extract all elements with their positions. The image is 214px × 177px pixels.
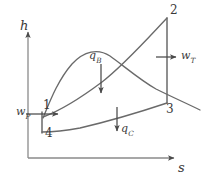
pump-work-symbol: w [16, 105, 25, 118]
state-point-label-2: 2 [170, 4, 178, 16]
diagram-canvas [0, 0, 214, 177]
boiler-heat-label: qB [89, 50, 101, 63]
saturation-dome-curve [43, 52, 200, 118]
pump-work-subscript: P [26, 112, 31, 121]
hs-rankine-cycle-figure: h s 1 2 3 4 wP wT qB qC [0, 0, 214, 177]
state-point-label-1: 1 [43, 99, 51, 111]
x-axis-label: s [178, 161, 185, 174]
process-3-4-condenser-curve [42, 103, 167, 132]
state-point-label-3: 3 [166, 103, 174, 115]
pump-work-label: wP [16, 106, 30, 119]
process-1-2-boiler-curve [43, 18, 167, 117]
boiler-heat-symbol: q [89, 49, 96, 62]
boiler-heat-subscript: B [96, 56, 101, 65]
condenser-heat-subscript: C [128, 129, 134, 138]
y-axis-label: h [20, 19, 28, 32]
turbine-work-subscript: T [191, 56, 196, 65]
turbine-work-label: wT [181, 50, 195, 63]
flow-arrows-group [26, 57, 176, 131]
state-point-label-4: 4 [45, 127, 53, 139]
condenser-heat-label: qC [121, 123, 134, 136]
turbine-work-symbol: w [181, 49, 190, 62]
condenser-heat-symbol: q [121, 122, 128, 135]
